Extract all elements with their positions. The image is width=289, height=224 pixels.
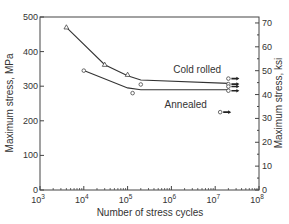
runout-arrow-icon xyxy=(231,82,239,86)
y2-tick-label: 60 xyxy=(262,42,272,52)
y-axis-right: 010203040506070 xyxy=(255,18,272,195)
circle-marker xyxy=(131,91,135,95)
x-tick-exponent: 3 xyxy=(41,193,45,200)
circle-marker xyxy=(227,89,231,93)
x-tick-exponent: 6 xyxy=(173,193,177,200)
y2-tick-label: 20 xyxy=(262,137,272,147)
y-tick-label: 200 xyxy=(23,116,38,126)
runout-arrow-icon xyxy=(231,89,239,93)
y-tick-label: 300 xyxy=(23,81,38,91)
series-group: Cold rolledAnnealed xyxy=(64,25,239,114)
triangle-marker xyxy=(125,72,130,76)
y2-axis-label: Maximum stress, ksi xyxy=(273,58,284,149)
y-tick-label: 100 xyxy=(23,150,38,160)
series-label: Cold rolled xyxy=(173,64,221,75)
fatigue-chart: 103104105106107108 0100200300400500 0102… xyxy=(0,0,289,224)
y2-tick-label: 50 xyxy=(262,66,272,76)
y2-tick-label: 10 xyxy=(262,161,272,171)
x-axis-label: Number of stress cycles xyxy=(97,207,204,218)
circle-marker xyxy=(227,77,231,81)
circle-marker xyxy=(139,83,143,87)
x-tick-label: 104 xyxy=(75,193,89,205)
y2-tick-label: 0 xyxy=(262,185,267,195)
triangle-marker xyxy=(64,25,69,29)
runout-arrow-icon xyxy=(231,85,239,89)
x-tick-exponent: 4 xyxy=(85,193,89,200)
y2-tick-label: 70 xyxy=(262,18,272,28)
y-tick-label: 0 xyxy=(33,185,38,195)
series-annealed: Annealed xyxy=(82,69,239,114)
runout-arrow-icon xyxy=(231,77,239,81)
circle-marker xyxy=(218,110,222,114)
series-cold-rolled: Cold rolled xyxy=(64,25,239,89)
y-axis-left: 0100200300400500 xyxy=(23,12,44,195)
y2-tick-label: 40 xyxy=(262,90,272,100)
y2-tick-label: 30 xyxy=(262,113,272,123)
y-axis-label: Maximum stress, MPa xyxy=(4,53,15,152)
circle-marker xyxy=(227,85,231,89)
x-tick-label: 105 xyxy=(119,193,133,205)
x-tick-exponent: 7 xyxy=(216,193,220,200)
plot-frame xyxy=(40,17,259,190)
series-label: Annealed xyxy=(165,99,207,110)
x-tick-exponent: 5 xyxy=(129,193,133,200)
x-tick-label: 106 xyxy=(163,193,177,205)
x-axis: 103104105106107108 xyxy=(31,186,264,205)
y-tick-label: 400 xyxy=(23,47,38,57)
runout-arrow-icon xyxy=(223,110,231,114)
x-tick-label: 107 xyxy=(206,193,220,205)
y-tick-label: 500 xyxy=(23,12,38,22)
circle-marker xyxy=(82,69,86,73)
